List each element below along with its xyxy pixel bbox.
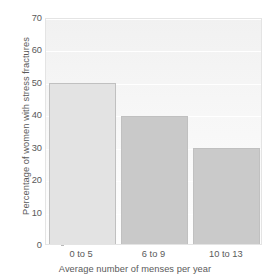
- gridline: [46, 19, 261, 20]
- y-axis-tick-label: 40: [18, 109, 42, 121]
- x-axis-tick-label: 10 to 13: [190, 248, 262, 261]
- plot-area: [45, 18, 262, 245]
- x-axis-tick-label: 0 to 5: [45, 248, 117, 261]
- y-axis-tick-label: 30: [18, 142, 42, 154]
- x-axis-tick-label: 6 to 9: [117, 248, 189, 261]
- bar-chart-figure: Percentage of women with stress fracture…: [0, 0, 270, 278]
- y-axis-tick-label: 20: [18, 174, 42, 186]
- y-axis-tick-label: 50: [18, 77, 42, 89]
- bar: [121, 116, 188, 244]
- bar: [49, 83, 116, 244]
- x-axis-tick-labels: 0 to 56 to 910 to 13: [45, 248, 262, 262]
- y-axis-tick-label: 60: [18, 44, 42, 56]
- y-axis-tick-label: 10: [18, 207, 42, 219]
- gridline: [46, 51, 261, 52]
- bar: [193, 148, 260, 244]
- y-axis-tick-label: 0: [18, 239, 42, 251]
- y-axis-tick-labels: 010203040506070: [18, 18, 42, 245]
- x-axis-title: Average number of menses per year: [0, 263, 270, 276]
- y-axis-tick-label: 70: [18, 12, 42, 24]
